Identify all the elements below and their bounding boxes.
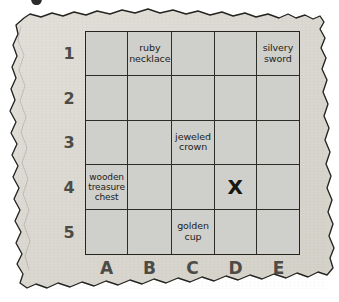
grid-cell-b1[interactable]: ruby necklace [128,32,172,76]
column-label-text: D [228,258,242,278]
x-marker: X [228,177,243,197]
column-label-b: B [128,256,171,282]
column-label-text: C [186,258,198,278]
grid-cell-d5[interactable] [215,210,257,254]
treasure-grid[interactable]: ruby necklacesilvery swordjeweled crownw… [85,31,300,255]
grid-cell-c3[interactable]: jeweled crown [172,121,214,165]
treasure-map-screenshot: ruby necklacesilvery swordjeweled crownw… [0,0,339,302]
treasure-label-c3: jeweled crown [173,132,212,153]
row-label-text: 2 [63,89,74,108]
grid-cell-c2[interactable] [172,76,214,120]
grid-cell-a1[interactable] [86,32,128,76]
row-label-5: 5 [57,210,81,255]
grid-cell-a2[interactable] [86,76,128,120]
grid-cell-b4[interactable] [128,165,172,209]
grid-cell-c1[interactable] [172,32,214,76]
grid-cell-e4[interactable] [257,165,299,209]
grid-cell-a4[interactable]: wooden treasure chest [86,165,128,209]
grid-cell-e2[interactable] [257,76,299,120]
grid-cell-b2[interactable] [128,76,172,120]
column-label-text: A [100,258,113,278]
grid-cell-a3[interactable] [86,121,128,165]
grid-cell-e1[interactable]: silvery sword [257,32,299,76]
column-label-axis: ABCDE [85,256,300,282]
grid-cell-c4[interactable] [172,165,214,209]
row-label-4: 4 [57,165,81,210]
treasure-label-c5: golden cup [173,221,212,242]
treasure-label-e1: silvery sword [258,43,298,64]
column-label-d: D [214,256,257,282]
treasure-label-b1: ruby necklace [129,43,170,64]
grid-cell-b3[interactable] [128,121,172,165]
grid-cell-d2[interactable] [215,76,257,120]
grid-cell-b5[interactable] [128,210,172,254]
treasure-label-a4: wooden treasure chest [87,172,126,202]
row-label-2: 2 [57,76,81,121]
column-label-a: A [85,256,128,282]
row-label-1: 1 [57,31,81,76]
grid-cell-d4[interactable]: X [215,165,257,209]
grid-cell-d1[interactable] [215,32,257,76]
row-label-text: 3 [63,133,74,152]
column-label-text: E [273,258,285,278]
row-label-axis: 12345 [57,31,81,255]
row-label-text: 1 [63,44,74,63]
grid-cell-c5[interactable]: golden cup [172,210,214,254]
row-label-3: 3 [57,121,81,166]
grid-cell-d3[interactable] [215,121,257,165]
column-label-e: E [257,256,300,282]
column-label-text: B [143,258,156,278]
grid-cell-e3[interactable] [257,121,299,165]
grid-cell-e5[interactable] [257,210,299,254]
row-label-text: 5 [63,223,74,242]
grid-cell-a5[interactable] [86,210,128,254]
column-label-c: C [171,256,214,282]
row-label-text: 4 [63,178,74,197]
